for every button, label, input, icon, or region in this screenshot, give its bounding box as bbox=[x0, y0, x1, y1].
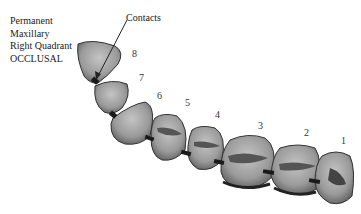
teeth-diagram bbox=[0, 0, 361, 214]
tooth-7 bbox=[95, 81, 129, 113]
tooth-number-1: 1 bbox=[341, 135, 346, 146]
tooth-number-6: 6 bbox=[157, 90, 162, 101]
tooth-number-2: 2 bbox=[304, 127, 309, 138]
tooth-2 bbox=[271, 145, 320, 194]
tooth-1 bbox=[315, 152, 354, 204]
tooth-number-8: 8 bbox=[132, 48, 137, 59]
tooth-number-5: 5 bbox=[185, 97, 190, 108]
tooth-number-3: 3 bbox=[258, 120, 263, 131]
tooth-8 bbox=[78, 41, 121, 83]
tooth-3 bbox=[221, 135, 274, 188]
tooth-number-4: 4 bbox=[215, 109, 220, 120]
tooth-number-7: 7 bbox=[139, 72, 144, 83]
